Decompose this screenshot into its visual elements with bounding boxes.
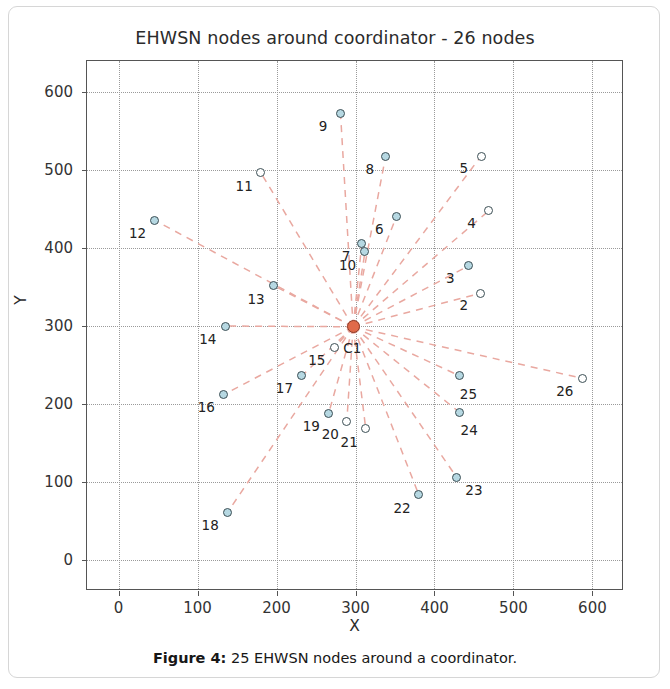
node-label: 14 <box>199 331 216 347</box>
node-marker[interactable] <box>464 261 473 270</box>
y-tick-label: 500 <box>44 161 73 179</box>
link-line <box>353 327 460 413</box>
link-line <box>353 243 362 326</box>
x-tick-label: 0 <box>114 599 124 617</box>
node-marker[interactable] <box>336 109 345 118</box>
node-label: 24 <box>461 422 478 438</box>
node-label: 18 <box>202 517 219 533</box>
node-label: 6 <box>375 221 384 237</box>
y-tick-label: 400 <box>44 239 73 257</box>
y-tick-label: 300 <box>44 317 73 335</box>
y-tick-label: 100 <box>44 473 73 491</box>
gridline-horizontal <box>87 560 622 561</box>
y-tick <box>82 92 87 93</box>
node-label: 8 <box>365 161 374 177</box>
node-marker[interactable] <box>455 408 464 417</box>
gridline-horizontal <box>87 248 622 249</box>
y-tick <box>82 482 87 483</box>
gridline-horizontal <box>87 482 622 483</box>
node-marker[interactable] <box>330 343 339 352</box>
plot-inner: 2345678910111213141516171819202122232425… <box>87 61 622 589</box>
node-marker[interactable] <box>392 212 401 221</box>
node-label: 9 <box>319 118 328 134</box>
y-tick <box>82 170 87 171</box>
x-tick <box>356 591 357 596</box>
gridline-horizontal <box>87 170 622 171</box>
node-label: 21 <box>341 434 358 450</box>
node-label: 16 <box>198 399 215 415</box>
link-line <box>261 172 353 326</box>
node-marker[interactable] <box>223 508 232 517</box>
node-marker[interactable] <box>455 371 464 380</box>
node-marker[interactable] <box>150 216 159 225</box>
node-label: 22 <box>393 500 410 516</box>
node-marker[interactable] <box>452 473 461 482</box>
node-marker[interactable] <box>360 247 369 256</box>
node-marker[interactable] <box>414 490 423 499</box>
plot-area: 2345678910111213141516171819202122232425… <box>86 60 623 590</box>
node-label: 4 <box>467 215 476 231</box>
gridline-vertical <box>513 61 514 589</box>
y-tick <box>82 560 87 561</box>
node-marker[interactable] <box>361 424 370 433</box>
y-tick <box>82 404 87 405</box>
node-label: 25 <box>460 386 477 402</box>
x-tick-label: 100 <box>183 599 212 617</box>
gridline-vertical <box>592 61 593 589</box>
node-label: 5 <box>459 160 468 176</box>
caption-text: 25 EHWSN nodes around a coordinator. <box>226 650 517 666</box>
gridline-vertical <box>277 61 278 589</box>
link-line <box>273 285 353 326</box>
node-label: 11 <box>236 178 253 194</box>
node-marker[interactable] <box>477 152 486 161</box>
coordinator-label: C1 <box>343 340 361 356</box>
node-label: 12 <box>129 225 146 241</box>
node-label: 20 <box>322 426 339 442</box>
y-tick-label: 200 <box>44 395 73 413</box>
x-tick <box>592 591 593 596</box>
node-marker[interactable] <box>476 289 485 298</box>
node-marker[interactable] <box>221 322 230 331</box>
link-line <box>353 327 582 378</box>
node-marker[interactable] <box>219 390 228 399</box>
link-line <box>353 327 456 477</box>
gridline-vertical <box>119 61 120 589</box>
y-axis-label: Y <box>12 295 30 304</box>
caption-figure-number: Figure 4: <box>153 650 227 666</box>
chart-title: EHWSN nodes around coordinator - 26 node… <box>0 28 670 48</box>
gridline-vertical <box>198 61 199 589</box>
link-line <box>228 327 354 513</box>
node-marker[interactable] <box>256 168 265 177</box>
coordinator-marker[interactable] <box>347 320 360 333</box>
node-marker[interactable] <box>297 371 306 380</box>
y-tick <box>82 248 87 249</box>
x-tick-label: 600 <box>578 599 607 617</box>
node-label: 17 <box>276 380 293 396</box>
node-label: 26 <box>556 383 573 399</box>
node-label: 10 <box>339 257 356 273</box>
node-marker[interactable] <box>578 374 587 383</box>
link-line <box>340 113 353 327</box>
node-label: 3 <box>446 270 455 286</box>
node-label: 2 <box>459 297 468 313</box>
node-marker[interactable] <box>484 206 493 215</box>
x-tick-label: 300 <box>341 599 370 617</box>
x-tick <box>434 591 435 596</box>
y-tick-label: 0 <box>63 551 73 569</box>
gridline-vertical <box>434 61 435 589</box>
y-tick <box>82 326 87 327</box>
link-line <box>353 327 460 376</box>
link-line <box>154 220 353 327</box>
node-marker[interactable] <box>269 281 278 290</box>
x-tick-label: 500 <box>499 599 528 617</box>
x-tick <box>119 591 120 596</box>
node-marker[interactable] <box>342 417 351 426</box>
node-label: 15 <box>308 352 325 368</box>
node-label: 13 <box>247 291 264 307</box>
node-marker[interactable] <box>381 152 390 161</box>
node-label: 19 <box>303 418 320 434</box>
x-tick <box>198 591 199 596</box>
figure-caption: Figure 4: 25 EHWSN nodes around a coordi… <box>0 650 670 666</box>
node-marker[interactable] <box>324 409 333 418</box>
gridline-horizontal <box>87 92 622 93</box>
